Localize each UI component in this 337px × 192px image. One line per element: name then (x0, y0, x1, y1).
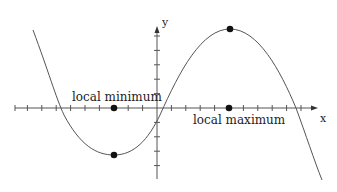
local-min-point (111, 152, 118, 159)
y-axis-arrow-icon (155, 26, 160, 33)
local-max-x-marker (226, 105, 233, 112)
local-min-label: local minimum (72, 90, 162, 104)
local-min-x-marker (111, 105, 118, 112)
x-axis-label: x (320, 112, 327, 125)
function-graph: local minimum local maximum y x (0, 0, 337, 192)
cubic-curve (33, 29, 322, 180)
local-max-point (227, 26, 234, 33)
x-axis-arrow-icon (311, 106, 318, 111)
local-max-label: local maximum (193, 113, 286, 127)
y-axis-label: y (161, 16, 169, 29)
